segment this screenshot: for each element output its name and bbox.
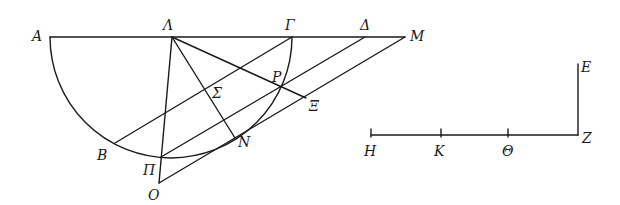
label-Theta: Θ — [502, 143, 514, 159]
label-Gamma: Γ — [284, 17, 296, 33]
label-A: A — [30, 28, 42, 44]
label-P: P — [271, 69, 282, 85]
labels: A Λ Γ Δ M P Σ Ξ B Π N O E Z H K Θ — [30, 17, 592, 203]
line-M-O — [159, 37, 405, 183]
line-Lambda-Xi — [172, 37, 306, 98]
label-H: H — [363, 143, 377, 159]
label-N: N — [237, 134, 251, 150]
label-Xi: Ξ — [308, 98, 319, 114]
label-O: O — [148, 187, 160, 203]
label-M: M — [409, 28, 425, 44]
label-B: B — [96, 147, 107, 163]
right-figure — [371, 64, 578, 137]
line-Gamma-B — [115, 37, 292, 143]
geometric-diagram: A Λ Γ Δ M P Σ Ξ B Π N O E Z H K Θ — [0, 0, 620, 205]
label-Z: Z — [581, 130, 592, 146]
label-E: E — [580, 59, 591, 75]
label-Pi: Π — [142, 162, 156, 178]
label-Delta: Δ — [359, 17, 370, 33]
label-Sigma: Σ — [211, 85, 222, 101]
line-Lambda-N — [172, 37, 235, 138]
label-Lambda: Λ — [161, 17, 173, 33]
label-K: K — [433, 143, 446, 159]
